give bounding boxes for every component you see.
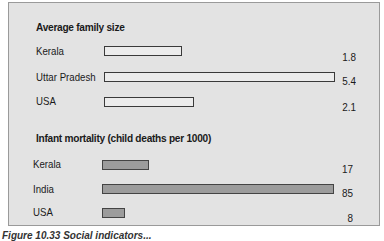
mortality-bar-kerala — [102, 160, 149, 170]
family-value-kerala: 1.8 — [329, 51, 356, 63]
mortality-row-label-india: India — [33, 183, 54, 195]
mortality-value-usa: 8 — [326, 212, 353, 224]
family-size-title: Average family size — [36, 21, 125, 33]
mortality-value-india: 85 — [326, 187, 353, 199]
family-value-uttar-pradesh: 5.4 — [329, 75, 356, 87]
figure-caption: Figure 10.33 Social indicators... — [2, 230, 152, 241]
family-row-label-usa: USA — [36, 95, 56, 107]
mortality-bar-usa — [102, 208, 125, 218]
mortality-value-kerala: 17 — [326, 163, 353, 175]
family-bar-usa — [104, 97, 194, 107]
family-bar-uttar-pradesh — [104, 72, 335, 82]
chart-panel: Average family size Kerala 1.8 Uttar Pra… — [8, 2, 380, 226]
mortality-row-label-usa: USA — [33, 206, 53, 218]
mortality-bar-india — [102, 184, 334, 194]
infant-mortality-title: Infant mortality (child deaths per 1000) — [36, 132, 211, 144]
family-bar-kerala — [104, 46, 182, 56]
family-row-label-uttar-pradesh: Uttar Pradesh — [36, 71, 96, 83]
family-value-usa: 2.1 — [329, 101, 356, 113]
family-row-label-kerala: Kerala — [36, 45, 64, 57]
mortality-row-label-kerala: Kerala — [33, 158, 61, 170]
